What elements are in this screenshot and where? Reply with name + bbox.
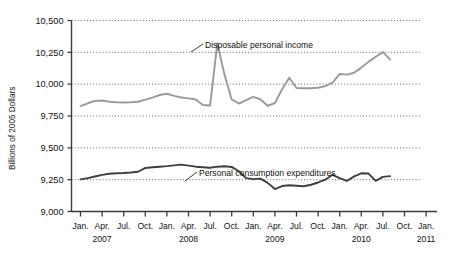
chart-container: 9,0009,2509,5009,75010,00010,25010,500 J… bbox=[0, 0, 451, 256]
x-tick-labels: Jan.Apr.Jul.Oct.Jan.Apr.Jul.Oct.Jan.Apr.… bbox=[72, 221, 434, 231]
annotation-label-personal-consumption-expenditures: Personal consumption expenditures bbox=[199, 168, 336, 178]
y-tick-label: 10,000 bbox=[35, 79, 63, 89]
x-tick-label: Apr. bbox=[354, 221, 369, 231]
x-tick-label: Jan. bbox=[72, 221, 88, 231]
y-tick-label: 9,000 bbox=[41, 207, 64, 217]
x-tick-label: Jan. bbox=[245, 221, 261, 231]
x-axis-year-label: 2007 bbox=[93, 234, 112, 244]
x-tick-label: Apr. bbox=[267, 221, 282, 231]
x-tick-label: Oct. bbox=[137, 221, 153, 231]
x-tick-label: Jan. bbox=[418, 221, 434, 231]
x-axis-year-label: 2009 bbox=[265, 234, 284, 244]
x-tick-label: Apr. bbox=[181, 221, 196, 231]
y-tick-label: 10,500 bbox=[35, 16, 63, 26]
y-axis-title: Billions of 2005 Dollars bbox=[8, 87, 17, 170]
x-tick-label: Jul. bbox=[290, 221, 303, 231]
x-tick-label: Jul. bbox=[203, 221, 216, 231]
x-axis-year-label: 2010 bbox=[352, 234, 371, 244]
x-tick-label: Oct. bbox=[224, 221, 240, 231]
y-tick-label: 9,500 bbox=[41, 143, 64, 153]
x-tick-label: Jan. bbox=[332, 221, 348, 231]
x-tick-label: Oct. bbox=[397, 221, 413, 231]
y-tick-label: 9,250 bbox=[41, 175, 64, 185]
y-tick-label: 9,750 bbox=[41, 111, 64, 121]
x-axis-year-label: 2011 bbox=[417, 234, 436, 244]
x-tick-label: Apr. bbox=[94, 221, 109, 231]
line-chart: 9,0009,2509,5009,75010,00010,25010,500 J… bbox=[0, 0, 451, 256]
x-tick-label: Jan. bbox=[159, 221, 175, 231]
x-tick-label: Jul. bbox=[117, 221, 130, 231]
annotation-label-disposable-personal-income: Disposable personal income bbox=[205, 40, 313, 50]
x-tick-label: Oct. bbox=[310, 221, 326, 231]
x-tick-label: Jul. bbox=[376, 221, 389, 231]
x-axis-year-label: 2008 bbox=[179, 234, 198, 244]
y-tick-label: 10,250 bbox=[35, 48, 63, 58]
chart-background bbox=[0, 0, 451, 256]
